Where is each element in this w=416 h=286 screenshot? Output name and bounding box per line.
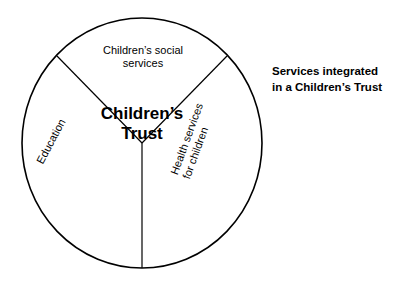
diagram-canvas: Children’s Trust Children’s social servi… [0,0,416,286]
caption-line1: Services integrated [272,64,412,80]
caption: Services integrated in a Children’s Trus… [272,64,412,95]
segment-label-social-services-line2: services [88,57,198,70]
segment-label-social-services-line1: Children’s social [88,44,198,57]
caption-line2: in a Children’s Trust [272,80,412,96]
segment-label-social-services: Children’s social services [88,44,198,70]
venn-circle-graphic [0,0,416,286]
